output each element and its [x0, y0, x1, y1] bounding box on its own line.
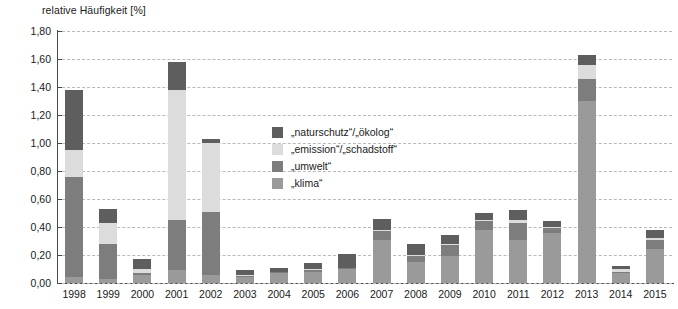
bar-segment[interactable]: [202, 139, 220, 143]
bar-group[interactable]: [236, 31, 254, 283]
bar-segment[interactable]: [578, 79, 596, 101]
bar-segment[interactable]: [612, 272, 630, 273]
legend-swatch-icon: [272, 178, 283, 189]
y-tick-label: 1,00: [31, 137, 51, 149]
bar-segment[interactable]: [202, 212, 220, 275]
bar-segment[interactable]: [99, 244, 117, 279]
bar-segment[interactable]: [236, 270, 254, 274]
bar-segment[interactable]: [441, 244, 459, 245]
bar-group[interactable]: [612, 31, 630, 283]
bar-segment[interactable]: [304, 270, 322, 271]
legend-swatch-icon: [272, 144, 283, 155]
y-axis-title: relative Häufigkeit [%]: [42, 4, 146, 16]
x-tick-label: 2015: [635, 288, 675, 300]
bar-segment[interactable]: [99, 209, 117, 223]
bar-segment[interactable]: [407, 256, 425, 262]
bar-group[interactable]: [202, 31, 220, 283]
bar-segment[interactable]: [543, 233, 561, 283]
bar-segment[interactable]: [304, 272, 322, 283]
bar-group[interactable]: [99, 31, 117, 283]
bar-segment[interactable]: [338, 269, 356, 283]
bar-group[interactable]: [168, 31, 186, 283]
bar-segment[interactable]: [612, 266, 630, 269]
bar-segment[interactable]: [475, 213, 493, 220]
y-tick-label: 1,40: [31, 81, 51, 93]
bar-segment[interactable]: [646, 249, 664, 283]
bar-segment[interactable]: [509, 220, 527, 223]
bar-segment[interactable]: [509, 240, 527, 283]
bar-segment[interactable]: [133, 273, 151, 274]
bar-group[interactable]: [578, 31, 596, 283]
bar-group[interactable]: [65, 31, 83, 283]
bar-segment[interactable]: [270, 272, 288, 273]
bar-segment[interactable]: [133, 259, 151, 269]
bar-segment[interactable]: [578, 55, 596, 65]
bar-segment[interactable]: [612, 273, 630, 283]
bar-segment[interactable]: [65, 90, 83, 150]
y-tick-mark: [57, 283, 62, 284]
bar-segment[interactable]: [475, 221, 493, 229]
bar-segment[interactable]: [441, 235, 459, 243]
bar-segment[interactable]: [236, 275, 254, 276]
bar-segment[interactable]: [373, 240, 391, 283]
bar-segment[interactable]: [236, 277, 254, 283]
bar-segment[interactable]: [65, 177, 83, 278]
bar-segment[interactable]: [475, 230, 493, 283]
bar-segment[interactable]: [133, 269, 151, 273]
bar-segment[interactable]: [407, 255, 425, 256]
bar-segment[interactable]: [543, 221, 561, 227]
bar-segment[interactable]: [270, 268, 288, 272]
bar-segment[interactable]: [646, 230, 664, 238]
y-tick-label: 0,60: [31, 193, 51, 205]
bar-segment[interactable]: [441, 256, 459, 283]
bar-segment[interactable]: [543, 228, 561, 232]
bar-group[interactable]: [441, 31, 459, 283]
bar-segment[interactable]: [168, 90, 186, 220]
bar-segment[interactable]: [509, 210, 527, 220]
bar-segment[interactable]: [373, 219, 391, 230]
legend-item[interactable]: „naturschutz“/„ökolog“: [272, 124, 397, 141]
bar-segment[interactable]: [338, 268, 356, 269]
bar-segment[interactable]: [578, 65, 596, 79]
bar-group[interactable]: [543, 31, 561, 283]
chart-legend: „naturschutz“/„ökolog“„emission“/„schads…: [272, 124, 397, 192]
bar-segment[interactable]: [407, 244, 425, 255]
bar-group[interactable]: [646, 31, 664, 283]
bar-segment[interactable]: [65, 277, 83, 283]
bar-segment[interactable]: [168, 270, 186, 283]
bar-group[interactable]: [133, 31, 151, 283]
bar-group[interactable]: [407, 31, 425, 283]
y-tick-label: 0,00: [31, 277, 51, 289]
legend-item[interactable]: „klima“: [272, 175, 397, 192]
bar-segment[interactable]: [441, 245, 459, 256]
bar-segment[interactable]: [99, 279, 117, 283]
bar-segment[interactable]: [133, 275, 151, 283]
bar-segment[interactable]: [373, 231, 391, 239]
bar-segment[interactable]: [543, 227, 561, 228]
bar-group[interactable]: [509, 31, 527, 283]
bar-segment[interactable]: [270, 273, 288, 283]
bar-segment[interactable]: [407, 262, 425, 283]
bar-segment[interactable]: [304, 263, 322, 269]
bar-segment[interactable]: [509, 223, 527, 240]
bar-segment[interactable]: [373, 230, 391, 231]
bar-segment[interactable]: [646, 238, 664, 239]
chart-container: relative Häufigkeit [%] 1,801,601,401,20…: [0, 0, 678, 309]
bar-segment[interactable]: [202, 275, 220, 283]
bar-segment[interactable]: [168, 220, 186, 270]
legend-item[interactable]: „umwelt“: [272, 158, 397, 175]
bar-segment[interactable]: [612, 269, 630, 272]
bar-group[interactable]: [475, 31, 493, 283]
bar-segment[interactable]: [99, 223, 117, 244]
bar-segment[interactable]: [202, 143, 220, 212]
legend-item[interactable]: „emission“/„schadstoff“: [272, 141, 397, 158]
y-tick-label: 0,20: [31, 249, 51, 261]
bar-segment[interactable]: [304, 269, 322, 270]
bar-segment[interactable]: [646, 240, 664, 250]
bar-segment[interactable]: [65, 150, 83, 177]
bar-segment[interactable]: [338, 254, 356, 268]
bar-segment[interactable]: [236, 276, 254, 277]
bar-segment[interactable]: [168, 62, 186, 90]
bar-segment[interactable]: [578, 101, 596, 283]
bar-segment[interactable]: [475, 220, 493, 221]
